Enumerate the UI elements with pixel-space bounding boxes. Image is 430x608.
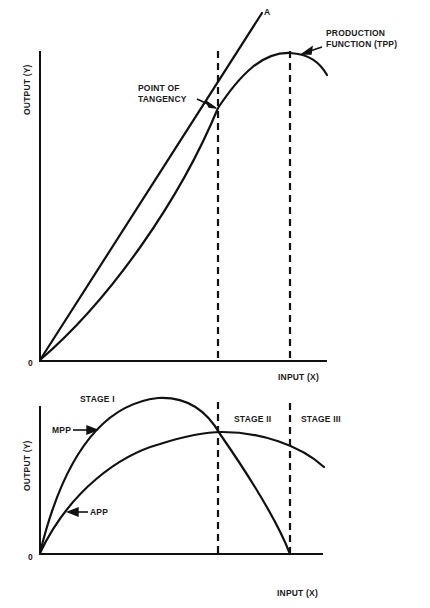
top-y-axis-label: OUTPUT (Y) (22, 64, 32, 115)
tpp-arrow-icon (302, 47, 322, 54)
stage-3-label: STAGE III (301, 414, 341, 424)
mpp-label: MPP (52, 425, 71, 435)
tangency-label-line1: POINT OF (138, 83, 180, 93)
tpp-label-line2: FUNCTION (TPP) (326, 39, 397, 49)
stage-1-label: STAGE I (80, 394, 115, 404)
tangency-label-line2: TANGENCY (138, 94, 187, 104)
production-stages-diagram: OUTPUT (Y) INPUT (X) 0 A POINT OF TANGEN… (0, 0, 430, 608)
top-x-axis-label: INPUT (X) (278, 372, 319, 382)
bottom-chart: OUTPUT (Y) INPUT (X) 0 STAGE I STAGE II … (22, 394, 341, 598)
top-origin-label: 0 (28, 358, 33, 368)
tpp-label-line1: PRODUCTION (326, 28, 385, 38)
bottom-x-axis-label: INPUT (X) (277, 588, 318, 598)
top-chart: OUTPUT (Y) INPUT (X) 0 A POINT OF TANGEN… (22, 7, 397, 382)
bottom-origin-label: 0 (28, 552, 33, 562)
bottom-y-axis-label: OUTPUT (Y) (22, 440, 32, 491)
ray-a-label: A (264, 7, 270, 17)
ray-a-line (40, 13, 262, 360)
stage-2-label: STAGE II (234, 414, 271, 424)
app-label: APP (90, 507, 108, 517)
app-arrow-icon (68, 508, 88, 516)
